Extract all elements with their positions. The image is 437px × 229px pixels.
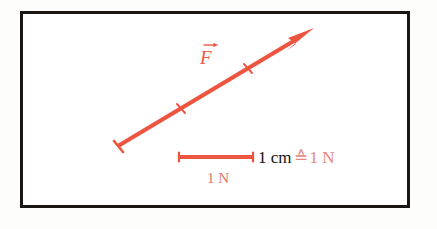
scale-force-value: 1 N <box>310 148 335 167</box>
scale-length-value: 1 cm <box>258 148 292 167</box>
force-vector-figure: F 1 N 1 cm≙1 N <box>0 0 437 229</box>
corresponds-to-icon: ≙ <box>292 148 310 167</box>
scale-equivalence: 1 cm≙1 N <box>258 147 335 168</box>
force-vector-label: F <box>200 42 212 67</box>
scale-legend: 1 N 1 cm≙1 N <box>176 150 416 200</box>
vector-overbar-arrow-icon <box>203 41 218 47</box>
scale-bar-caption: 1 N <box>188 170 248 187</box>
scale-bar <box>176 150 256 170</box>
